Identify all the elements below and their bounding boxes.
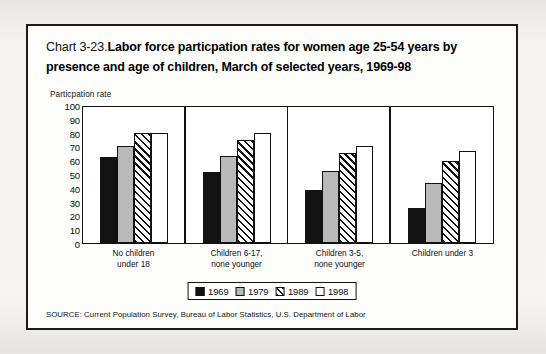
bar-1989 — [442, 161, 459, 243]
legend-label: 1989 — [288, 286, 308, 297]
bar-1998 — [356, 146, 373, 243]
bar-1998 — [459, 151, 476, 243]
legend-item-1998: 1998 — [315, 286, 348, 297]
bar-1969 — [408, 208, 425, 243]
y-axis-label: 20 — [50, 211, 80, 222]
bar-1969 — [203, 172, 220, 243]
category-label: Children 3-5,none younger — [288, 248, 391, 270]
bar-1998 — [151, 133, 168, 243]
bar-group — [186, 107, 289, 243]
legend-swatch-icon — [276, 287, 285, 296]
category-label: No childrenunder 18 — [82, 248, 185, 270]
y-axis-label: 0 — [50, 239, 80, 250]
legend-label: 1969 — [208, 286, 228, 297]
chart-title-main: Labor force particpation rates for women… — [46, 40, 457, 74]
bar-1989 — [134, 133, 151, 243]
bar-1979 — [322, 171, 339, 243]
legend-item-1979: 1979 — [236, 286, 269, 297]
y-axis-label: 10 — [50, 225, 80, 236]
y-axis-label: 100 — [50, 101, 80, 112]
plot-area — [82, 106, 494, 244]
source-note: SOURCE: Current Population Survey, Burea… — [46, 310, 366, 319]
bar-1979 — [425, 183, 442, 243]
bar-1989 — [339, 153, 356, 243]
bar-1998 — [254, 133, 271, 243]
legend-label: 1979 — [248, 286, 268, 297]
legend-item-1969: 1969 — [196, 286, 229, 297]
y-axis-caption: Particpation rate — [50, 90, 111, 99]
chart-legend: 1969197919891998 — [188, 282, 357, 300]
legend-item-1989: 1989 — [276, 286, 309, 297]
legend-swatch-icon — [236, 287, 245, 296]
y-axis-labels: 0102030405060708090100 — [50, 106, 80, 244]
legend-label: 1998 — [328, 286, 348, 297]
bar-1969 — [100, 157, 117, 243]
legend-swatch-icon — [196, 287, 205, 296]
chart-title: Chart 3-23.Labor force particpation rate… — [46, 36, 498, 76]
bars-layer — [83, 107, 493, 243]
bar-1969 — [305, 190, 322, 243]
category-label: Children under 3 — [391, 248, 494, 270]
bar-1979 — [117, 146, 134, 243]
y-axis-label: 40 — [50, 183, 80, 194]
bar-group — [83, 107, 186, 243]
chart-card: Chart 3-23.Labor force particpation rate… — [26, 24, 518, 330]
category-label: Children 6-17,none younger — [185, 248, 288, 270]
y-axis-label: 60 — [50, 156, 80, 167]
y-axis-label: 80 — [50, 128, 80, 139]
chart-title-prefix: Chart 3-23. — [46, 40, 107, 54]
y-axis-label: 70 — [50, 142, 80, 153]
bar-1989 — [237, 140, 254, 243]
bar-1979 — [220, 156, 237, 243]
y-axis-label: 90 — [50, 114, 80, 125]
bar-group — [288, 107, 391, 243]
legend-swatch-icon — [315, 287, 324, 296]
bar-group — [391, 107, 494, 243]
y-axis-label: 30 — [50, 197, 80, 208]
y-axis-label: 50 — [50, 170, 80, 181]
x-axis-category-labels: No childrenunder 18Children 6-17,none yo… — [82, 248, 494, 270]
